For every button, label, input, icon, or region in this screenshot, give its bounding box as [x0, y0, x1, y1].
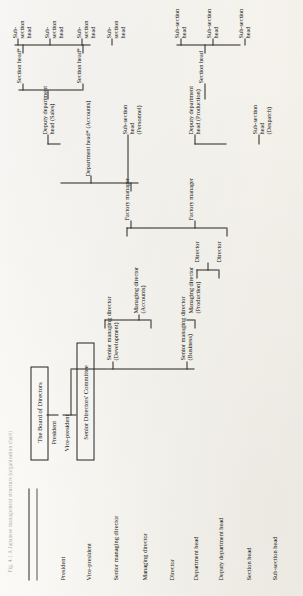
connector-subsection-personnel: [127, 134, 128, 183]
node-director-2: Director: [214, 241, 221, 262]
connector-smd-development: [112, 361, 113, 369]
node-subsection-head-sales-4: Sub- section head: [104, 20, 126, 38]
node-section-head-sales-a: Section head*: [14, 48, 21, 84]
connector-subsection-production-2: [212, 38, 213, 45]
connector-section-head-production: [204, 83, 205, 99]
legend-level-managing-director: Managing director: [140, 484, 167, 580]
connector-subsection-sales-2: [49, 38, 50, 45]
connector-fm-bus-top: [126, 227, 127, 236]
rotated-figure-canvas: Fig. 4.1 A Japanese management structure…: [0, 0, 303, 596]
connector-subsection-production-1: [180, 38, 181, 45]
node-subsection-head-production-2: Sub-section head: [204, 8, 218, 38]
bus-md-development: [104, 319, 150, 320]
node-md-accounts: Managing director (Accounts): [131, 266, 145, 313]
connector-smd-business: [186, 361, 187, 369]
bus-department-head: [60, 182, 138, 183]
connector-md-production-stem: [186, 319, 194, 320]
legend-rule-second: [36, 488, 37, 580]
node-section-head-sales-b: Section head*: [74, 48, 81, 84]
board-of-directors-label: The Board of Directors: [35, 370, 42, 454]
connector-deputy-production-stem: [194, 143, 226, 144]
connector-subsection-sales-4: [111, 38, 112, 45]
node-section-head-production: Section head: [196, 51, 203, 83]
legend-rule-top: [28, 488, 29, 580]
node-vice-president: Vice-president: [62, 414, 69, 451]
node-subsection-head-despatch: Sub-section head (Despatch): [250, 104, 272, 134]
node-subsection-head-sales-1: Sub- section head: [10, 20, 32, 38]
connector-section-head-sales-a: [22, 83, 23, 90]
connector-subsection-production-in: [204, 44, 205, 53]
node-factory-manager-1: Factory manager: [122, 178, 129, 221]
connector-board-president: [46, 414, 58, 415]
connector-factory-manager-1: [130, 220, 131, 228]
connector-deputy-sales: [47, 134, 48, 144]
connector-subsection-production-3: [244, 38, 245, 45]
connector-md-dev-top: [104, 319, 105, 328]
connector-dept-head-in: [130, 182, 131, 191]
org-chart: Fig. 4.1 A Japanese management structure…: [0, 0, 303, 596]
connector-md-accounts: [138, 314, 139, 320]
figure-caption: Fig. 4.1 A Japanese management structure…: [6, 152, 12, 572]
connector-md-production: [194, 319, 195, 328]
node-subsection-head-sales-2: Sub- section head: [42, 20, 64, 38]
connector-director-1-tick: [196, 269, 197, 278]
node-factory-manager-2: Factory manager: [186, 178, 193, 221]
connector-vp-bus: [70, 369, 71, 415]
bus-senior-managing-directors: [108, 368, 194, 369]
connector-deputy-production: [194, 134, 195, 144]
legend-level-section-head: Section head: [244, 484, 270, 580]
connector-subsection-sales-3: [81, 38, 82, 45]
connector-subsection-sales-1: [17, 38, 18, 45]
bus-section-heads-sales: [18, 89, 82, 90]
legend-level-vice-president: Vice-president: [84, 484, 111, 580]
node-subsection-head-sales-3: Sub- section head: [74, 20, 96, 38]
node-smd-development: Senior managing director (Development): [104, 296, 118, 360]
connector-directors-stem: [207, 262, 208, 270]
connector-factory-manager-2: [194, 220, 195, 228]
connector-deputy-sales-stem: [47, 143, 60, 144]
connector-subsection-sales-spine-a: [22, 44, 23, 53]
legend-level-president: President: [58, 484, 84, 580]
node-subsection-head-personnel: Sub-section head (Personnel): [120, 104, 142, 134]
legend-level-sub-section-head: Sub-section head: [270, 484, 296, 580]
hierarchy-legend: President Vice-president Senior managing…: [28, 484, 296, 580]
legend-level-director: Director: [167, 484, 191, 580]
node-md-production: Managing director (Production): [186, 266, 200, 313]
bus-factory-managers: [126, 227, 226, 228]
node-department-head-accounts: Department head* (Accounts): [83, 100, 90, 176]
connector-subsection-despatch: [258, 134, 259, 144]
connector-dept-head-out: [90, 175, 91, 183]
bus-subsection-heads-sales: [14, 44, 90, 45]
bus-subsection-heads-production: [176, 44, 240, 45]
connector-director-2-tick: [218, 269, 219, 278]
node-deputy-department-head-production: Deputy department head (Production): [186, 86, 200, 134]
connector-section-head-sales-b: [82, 83, 83, 90]
legend-level-department-head: Department head: [191, 484, 216, 580]
node-director-1: Director: [192, 241, 199, 262]
connector-fm-bus-bottom: [226, 227, 227, 236]
node-subsection-head-production-1: Sub-section head: [172, 8, 186, 38]
connector-vp-drop: [70, 368, 108, 369]
node-president: President: [49, 421, 56, 444]
legend-level-senior-managing-director: Senior managing director: [111, 484, 140, 580]
connector-section-heads-sales-in: [47, 90, 48, 99]
connector-md-dev-bottom: [150, 319, 151, 328]
node-subsection-head-production-3: Sub-section head: [236, 8, 250, 38]
legend-level-deputy-department-head: Deputy department head: [216, 484, 244, 580]
senior-directors-committee-label: Senior Directors' Committee: [81, 348, 88, 456]
